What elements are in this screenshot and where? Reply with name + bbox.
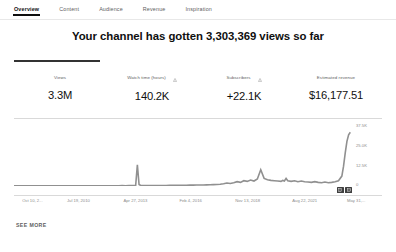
metric-card-watch-time[interactable]: Watch time (hours) 140.2K [106, 60, 198, 98]
x-tick-label: Feb 4, 2016 [179, 198, 201, 203]
x-tick-label: Jul 19, 2010 [67, 198, 90, 203]
chart-top-divider [14, 118, 382, 119]
metric-value: 3.3M [14, 89, 106, 101]
chart-plot-area[interactable] [14, 124, 352, 186]
chart-line-svg [14, 124, 352, 186]
metric-label: Estimated revenue [317, 75, 355, 80]
tab-label: Inspiration [185, 6, 212, 12]
metric-label: Watch time (hours) [127, 75, 166, 80]
metric-value: +22.1K [198, 90, 290, 102]
warning-icon[interactable] [258, 68, 262, 86]
metric-value: $16,177.51 [290, 89, 382, 101]
tab-label: Audience [99, 6, 123, 12]
y-tick-label: 0 [356, 182, 358, 187]
chart-view-toggle-2-button[interactable] [345, 187, 352, 193]
metric-value: 140.2K [106, 90, 198, 102]
x-tick-label: Apr 27, 2013 [123, 198, 147, 203]
chart-control-group [337, 187, 353, 193]
tab-label: Overview [14, 6, 39, 12]
warning-icon[interactable] [173, 68, 177, 86]
tab-content[interactable]: Content [59, 0, 79, 17]
tab-label: Revenue [143, 6, 166, 12]
views-chart-panel: 37.5K 25.0K 12.5K 0 [14, 118, 382, 196]
metric-card-views[interactable]: Views 3.3M [14, 60, 106, 98]
metric-label: Subscribers [226, 75, 250, 80]
page-headline: Your channel has gotten 3,303,369 views … [0, 30, 396, 42]
analytics-tab-bar: Overview Content Audience Revenue Inspir… [0, 0, 396, 20]
metric-card-estimated-revenue[interactable]: Estimated revenue $16,177.51 [290, 60, 382, 98]
see-more-link[interactable]: SEE MORE [16, 222, 47, 228]
y-tick-label: 12.5K [356, 163, 367, 168]
chart-x-axis: Oct 10, 2... Jul 19, 2010 Apr 27, 2013 F… [14, 198, 382, 208]
y-tick-label: 25.0K [356, 143, 367, 148]
chart-bottom-divider [14, 195, 382, 196]
metric-card-subscribers[interactable]: Subscribers +22.1K [198, 60, 290, 98]
x-tick-label: May 31,... [347, 198, 365, 203]
chart-y-axis: 37.5K 25.0K 12.5K 0 [356, 124, 396, 186]
x-tick-label: Aug 22, 2021 [292, 198, 317, 203]
tab-audience[interactable]: Audience [99, 0, 123, 17]
chart-view-toggle-1-button[interactable] [337, 187, 344, 193]
tab-revenue[interactable]: Revenue [143, 0, 166, 17]
x-tick-label: Nov 13, 2018 [235, 198, 260, 203]
y-tick-label: 37.5K [356, 123, 367, 128]
metric-label: Views [54, 75, 66, 80]
tab-inspiration[interactable]: Inspiration [185, 0, 212, 17]
tab-label: Content [59, 6, 79, 12]
tab-overview[interactable]: Overview [14, 0, 39, 17]
analytics-overview-page: Overview Content Audience Revenue Inspir… [0, 0, 396, 252]
metric-card-row: Views 3.3M Watch time (hours) 140.2K Sub… [14, 60, 382, 98]
x-tick-label: Oct 10, 2... [22, 198, 42, 203]
